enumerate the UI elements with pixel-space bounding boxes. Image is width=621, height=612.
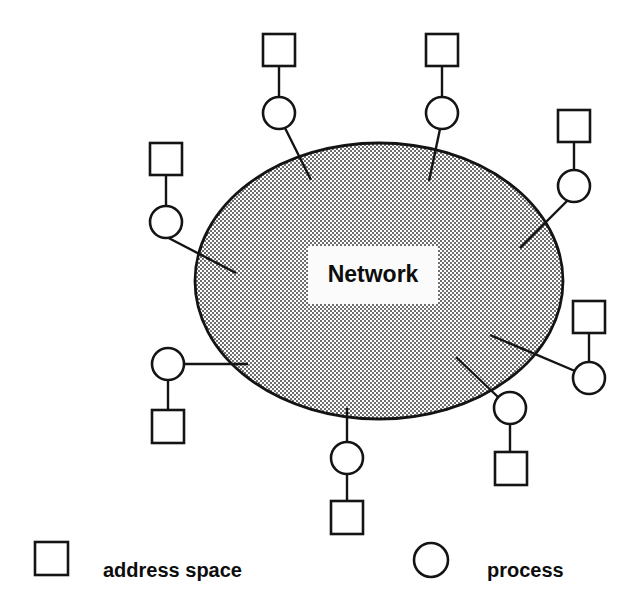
process-circle-icon[interactable] [152,348,184,380]
process-circle-icon[interactable] [494,392,526,424]
legend: address spaceprocess [35,542,564,581]
legend-circle-icon [414,543,448,577]
address-space-square-icon[interactable] [150,143,182,175]
address-space-square-icon[interactable] [558,110,590,142]
network-label: Network [328,261,419,287]
network-cloud[interactable]: Network [195,143,563,419]
process-circle-icon[interactable] [558,170,590,202]
legend-square-icon [35,542,68,575]
legend-label: process [487,559,564,581]
address-space-square-icon[interactable] [573,301,605,333]
network-diagram: Network address spaceprocess [0,0,621,612]
legend-item: address space [35,542,242,581]
network-node[interactable] [331,408,363,534]
diagram-canvas: Network address spaceprocess [0,0,621,612]
legend-item: process [414,543,564,581]
process-circle-icon[interactable] [150,206,182,238]
legend-label: address space [103,559,242,581]
address-space-square-icon[interactable] [331,501,363,534]
process-circle-icon[interactable] [331,442,363,474]
process-circle-icon[interactable] [426,97,458,129]
address-space-square-icon[interactable] [152,410,184,443]
process-circle-icon[interactable] [573,362,605,394]
address-space-square-icon[interactable] [263,34,295,66]
address-space-square-icon[interactable] [426,34,458,66]
address-space-square-icon[interactable] [495,452,527,485]
process-circle-icon[interactable] [263,97,295,129]
